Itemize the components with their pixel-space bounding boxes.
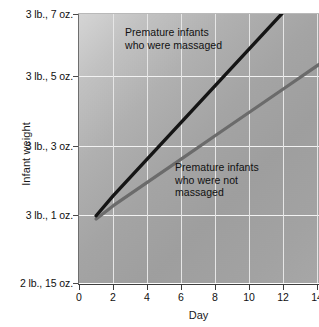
y-axis-tick-label: 2 lb., 15 oz. xyxy=(1,277,73,289)
x-axis-tick-mark xyxy=(283,285,284,290)
x-axis-tick-mark xyxy=(317,285,318,290)
x-axis-tick-mark xyxy=(249,285,250,290)
y-axis-tick-label: 3 lb., 1 oz. xyxy=(1,209,73,221)
x-axis-tick-label: 14 xyxy=(302,291,319,303)
plot-area: Premature infants who were massaged Prem… xyxy=(79,14,319,283)
y-axis-tick-label: 3 lb., 5 oz. xyxy=(1,70,73,82)
x-axis-tick-mark xyxy=(181,285,182,290)
x-axis-tick-mark xyxy=(79,285,80,290)
y-axis-tick-group: 3 lb., 7 oz.3 lb., 5 oz.3 lb., 3 oz.3 lb… xyxy=(0,0,73,327)
x-axis-tick-label: 0 xyxy=(64,291,94,303)
x-axis-tick-mark xyxy=(215,285,216,290)
x-axis-tick-label: 4 xyxy=(132,291,162,303)
series-lines xyxy=(79,14,319,283)
annotation-not-massaged: Premature infants who were not massaged xyxy=(175,161,259,199)
infant-weight-line-chart: Infant weight 3 lb., 7 oz.3 lb., 5 oz.3 … xyxy=(0,0,319,327)
annotation-massaged: Premature infants who were massaged xyxy=(125,26,222,51)
x-axis-tick-label: 6 xyxy=(166,291,196,303)
x-axis-tick-label: 2 xyxy=(98,291,128,303)
y-axis-tick-label: 3 lb., 3 oz. xyxy=(1,140,73,152)
y-axis-tick-label: 3 lb., 7 oz. xyxy=(1,8,73,20)
x-axis-tick-label: 10 xyxy=(234,291,264,303)
x-axis-tick-label: 12 xyxy=(268,291,298,303)
x-axis-title: Day xyxy=(78,309,319,321)
x-axis-tick-mark xyxy=(147,285,148,290)
x-axis-tick-mark xyxy=(113,285,114,290)
x-axis-tick-label: 8 xyxy=(200,291,230,303)
